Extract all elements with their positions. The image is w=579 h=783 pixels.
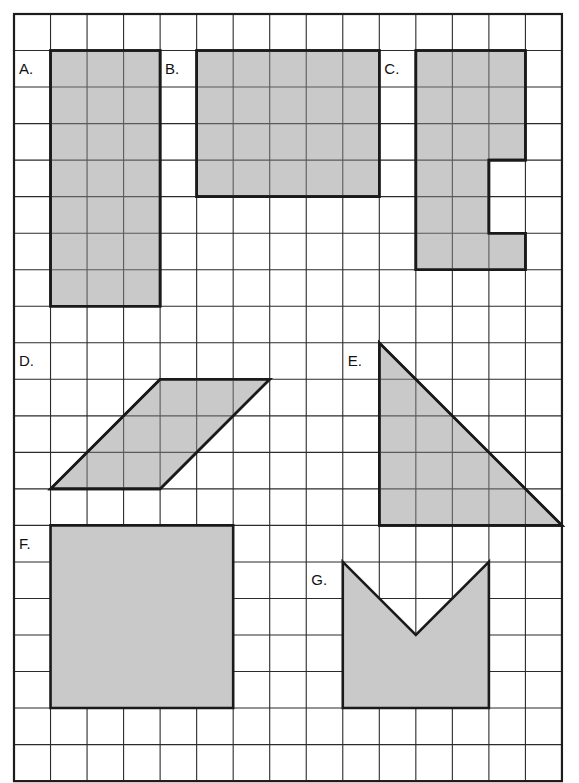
shape-f <box>51 525 234 708</box>
shape-c-label: C. <box>384 60 399 77</box>
shape-a <box>51 51 161 307</box>
shape-e-label: E. <box>348 352 362 369</box>
shape-g-label: G. <box>311 571 327 588</box>
shape-b-label: B. <box>165 60 179 77</box>
shape-a-label: A. <box>19 60 33 77</box>
shapes-grid-figure: A.B.C.D.E.F.G. <box>0 0 579 783</box>
shape-f-label: F. <box>19 535 31 552</box>
shape-d-label: D. <box>19 352 34 369</box>
worksheet-page: A.B.C.D.E.F.G. <box>0 0 579 783</box>
